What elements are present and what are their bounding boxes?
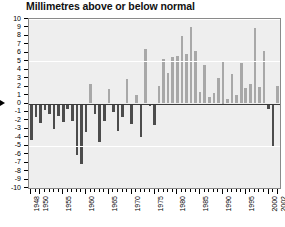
- x-tick-label: 1975: [157, 196, 164, 212]
- x-tick-mark: [135, 189, 136, 192]
- bar: [190, 27, 193, 104]
- x-tick-mark: [144, 189, 145, 192]
- zero-line: [29, 104, 280, 105]
- y-tick-label: 3: [17, 74, 21, 81]
- bar: [181, 36, 184, 104]
- x-tick-mark: [172, 189, 173, 192]
- y-tick-label: -6: [15, 150, 21, 157]
- bar: [235, 95, 238, 103]
- bar: [140, 104, 143, 138]
- bar: [80, 104, 83, 165]
- x-tick-label: 2000: [271, 196, 278, 212]
- bar: [176, 56, 179, 103]
- bar: [71, 104, 74, 122]
- x-tick-label: 1950: [42, 196, 49, 212]
- bar: [226, 99, 229, 103]
- bar: [121, 104, 124, 118]
- bar: [130, 104, 133, 124]
- bar: [213, 93, 216, 103]
- bar: [222, 61, 225, 103]
- x-tick-mark: [163, 189, 164, 192]
- y-tick-label: 7: [17, 40, 21, 47]
- chart-root: Millimetres above or below normal 109876…: [0, 0, 285, 227]
- x-tick-mark: [76, 189, 77, 192]
- bar: [254, 28, 257, 103]
- y-tick-label: 5: [17, 57, 21, 64]
- x-tick-mark: [140, 189, 141, 192]
- x-tick-label: 1955: [65, 196, 72, 212]
- x-tick-mark: [154, 189, 155, 194]
- bar: [258, 87, 261, 103]
- x-tick-label: 2002: [280, 196, 285, 212]
- bar: [231, 74, 234, 104]
- gridline: [29, 19, 280, 20]
- x-tick-mark: [103, 189, 104, 192]
- y-tick-label: -4: [15, 133, 21, 140]
- x-tick-mark: [254, 189, 255, 192]
- y-tick-label: -1: [15, 107, 21, 114]
- bar: [89, 84, 92, 103]
- y-tick-label: 8: [17, 31, 21, 38]
- y-tick-label: -5: [15, 141, 21, 148]
- x-tick-mark: [44, 189, 45, 192]
- x-tick-mark: [39, 189, 40, 194]
- x-axis: 1948195019551960196519701975198019851990…: [28, 189, 281, 227]
- x-tick-mark: [85, 189, 86, 194]
- bar: [240, 63, 243, 104]
- y-tick-label: 6: [17, 48, 21, 55]
- x-tick-mark: [176, 189, 177, 194]
- x-tick-mark: [35, 189, 36, 192]
- bar: [199, 92, 202, 104]
- x-tick-mark: [222, 189, 223, 194]
- bar: [108, 89, 111, 103]
- x-tick-mark: [126, 189, 127, 192]
- y-tick-label: 9: [17, 23, 21, 30]
- bar: [263, 51, 266, 103]
- bar: [249, 84, 252, 103]
- x-tick-mark: [80, 189, 81, 192]
- x-tick-mark: [49, 189, 50, 192]
- y-tick-label: 4: [17, 65, 21, 72]
- x-tick-label: 1960: [88, 196, 95, 212]
- y-tick-label: 2: [17, 82, 21, 89]
- bar: [171, 57, 174, 103]
- x-tick-mark: [208, 189, 209, 192]
- bar: [126, 79, 129, 104]
- x-tick-label: 1990: [225, 196, 232, 212]
- y-tick-label: -2: [15, 116, 21, 123]
- x-tick-mark: [90, 189, 91, 192]
- x-tick-mark: [108, 189, 109, 194]
- bar: [30, 104, 33, 140]
- bar: [135, 95, 138, 103]
- y-tick-label: -9: [15, 175, 21, 182]
- x-tick-mark: [268, 189, 269, 194]
- x-tick-mark: [195, 189, 196, 192]
- x-tick-mark: [94, 189, 95, 192]
- bar: [244, 88, 247, 103]
- x-tick-label: 1980: [179, 196, 186, 212]
- y-tick-label: 10: [13, 15, 21, 22]
- bar: [117, 104, 120, 131]
- x-tick-mark: [249, 189, 250, 192]
- x-tick-mark: [112, 189, 113, 192]
- x-tick-mark: [131, 189, 132, 194]
- x-tick-mark: [185, 189, 186, 192]
- bar: [144, 49, 147, 103]
- bar: [217, 78, 220, 103]
- x-tick-mark: [199, 189, 200, 194]
- bar: [167, 73, 170, 103]
- y-tick-label: -7: [15, 158, 21, 165]
- x-tick-mark: [213, 189, 214, 192]
- x-tick-mark: [263, 189, 264, 192]
- x-tick-label: 1948: [33, 196, 40, 212]
- x-tick-mark: [58, 189, 59, 192]
- bar: [162, 59, 165, 104]
- bar: [208, 97, 211, 104]
- bar: [35, 104, 38, 118]
- bar: [94, 104, 97, 115]
- x-tick-mark: [204, 189, 205, 192]
- y-axis: 109876543210-1-2-3-4-5-6-7-8-9-10: [0, 18, 28, 189]
- bar: [194, 51, 197, 103]
- x-tick-mark: [236, 189, 237, 192]
- gridline: [29, 146, 280, 147]
